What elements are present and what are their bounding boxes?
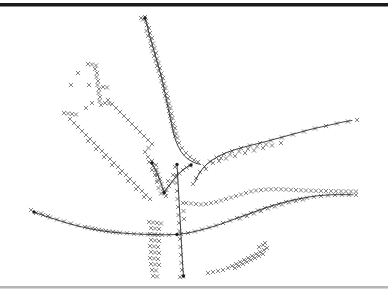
scatter-marker-x <box>156 245 160 249</box>
scatter-marker-x <box>255 144 259 148</box>
scatter-marker-x <box>132 181 136 185</box>
scatter-marker-x <box>239 192 243 196</box>
scatter-marker-x <box>80 129 84 133</box>
scatter-marker-x <box>106 98 110 102</box>
scatter-marker-x <box>289 188 293 192</box>
scatter-marker-x <box>68 117 72 121</box>
scatter-marker-x <box>84 133 88 137</box>
scatter-marker-x <box>233 154 237 158</box>
scatter-marker-x <box>150 168 154 172</box>
scatter-marker-x <box>147 220 151 224</box>
scatter-marker-x <box>94 75 98 79</box>
scatter-marker-x <box>95 83 99 87</box>
scatter-marker-x <box>211 270 215 274</box>
scatter-marker-x <box>116 165 120 169</box>
scatter-marker-x <box>87 83 91 87</box>
scatter-marker-x <box>96 79 100 83</box>
scatter-marker-x <box>304 188 308 192</box>
scatter-marker-x <box>180 146 184 150</box>
scatter-marker-x <box>334 189 338 193</box>
scatter-marker-x <box>154 268 158 272</box>
scatter-marker-x <box>99 103 103 107</box>
scatter-marker-x <box>66 111 70 115</box>
scatter-marker-x <box>138 130 142 134</box>
scatter-marker-x <box>270 143 274 147</box>
trajectory-node-dot <box>175 233 178 236</box>
scatter-marker-x <box>339 189 343 193</box>
scatter-marker-x <box>148 244 152 248</box>
scatter-marker-x <box>184 201 188 205</box>
scatter-marker-x <box>284 187 288 191</box>
scatter-marker-x <box>155 221 159 225</box>
node-dot-layer <box>32 16 192 277</box>
scatter-marker-x <box>324 189 328 193</box>
scatter-marker-x <box>153 250 157 254</box>
scatter-marker-x <box>194 202 198 206</box>
scatter-marker-x <box>118 171 122 175</box>
scatter-marker-x <box>294 188 298 192</box>
scatter-marker-x <box>150 142 154 146</box>
trend-line-layer <box>34 18 353 276</box>
scatter-marker-x <box>146 155 150 159</box>
scatter-marker-x <box>72 121 76 125</box>
scatter-marker-x <box>98 95 102 99</box>
scatter-marker-x <box>234 194 238 198</box>
scatter-marker-x <box>149 262 153 266</box>
scatter-marker-x <box>126 118 130 122</box>
scatter-marker-x <box>76 71 80 75</box>
scatter-marker-x <box>95 71 99 75</box>
scatter-marker-x <box>130 122 134 126</box>
scatter-marker-x <box>224 197 228 201</box>
scatter-marker-x <box>274 187 278 191</box>
trajectory-node-dot <box>150 161 153 164</box>
scatter-marker-x <box>152 244 156 248</box>
scatter-marker-x <box>269 187 273 191</box>
scatter-marker-x <box>309 189 313 193</box>
trajectory-node-dot <box>182 274 185 277</box>
scatter-marker-x <box>148 256 152 260</box>
scatter-marker-x <box>355 118 359 122</box>
scatter-marker-x <box>224 156 228 160</box>
scatter-marker-x <box>148 197 152 201</box>
scatter-marker-x <box>259 188 263 192</box>
scatter-marker-x <box>214 200 218 204</box>
scatter-marker-x <box>263 241 267 245</box>
scatter-marker-x <box>150 268 154 272</box>
scatter-marker-x <box>142 195 146 199</box>
trajectory-node-dot <box>143 16 146 19</box>
scatter-marker-x <box>252 148 256 152</box>
scatter-marker-x <box>279 141 283 145</box>
scatter-marker-x <box>149 226 153 230</box>
scatter-marker-x <box>149 238 153 242</box>
scatter-marker-x <box>156 186 160 190</box>
scatter-marker-x <box>329 189 333 193</box>
scatter-marker-x <box>153 226 157 230</box>
scatter-marker-x <box>151 274 155 278</box>
scatter-marker-x <box>102 155 106 159</box>
trajectory-node-dot <box>175 163 178 166</box>
scatter-marker-x <box>189 201 193 205</box>
scatter-marker-x <box>182 217 186 221</box>
scatter-marker-x <box>134 126 138 130</box>
figure-page <box>0 0 388 296</box>
scatter-marker-x <box>264 187 268 191</box>
trajectory-node-dot <box>162 191 165 194</box>
scatter-marker-x <box>97 87 101 91</box>
scatter-marker-x <box>254 188 258 192</box>
scatter-marker-x <box>206 271 210 275</box>
scatter-marker-x <box>146 138 150 142</box>
trajectory-node-dot <box>189 163 192 166</box>
scatter-marker-x <box>221 268 225 272</box>
scatter-marker-x <box>143 150 147 154</box>
scatter-marker-x <box>86 139 90 143</box>
scatter-marker-x <box>149 250 153 254</box>
scatter-marker-x <box>299 188 303 192</box>
scatter-marker-x <box>279 187 283 191</box>
scatter-marker-x <box>84 106 88 110</box>
scatter-marker-x <box>319 189 323 193</box>
scatter-marker-x <box>76 125 80 129</box>
scatter-marker-x <box>261 146 265 150</box>
trajectory-node-dot <box>32 210 35 213</box>
scatter-marker-x <box>166 179 170 183</box>
trend-line-right-ascending-branch <box>195 121 352 183</box>
